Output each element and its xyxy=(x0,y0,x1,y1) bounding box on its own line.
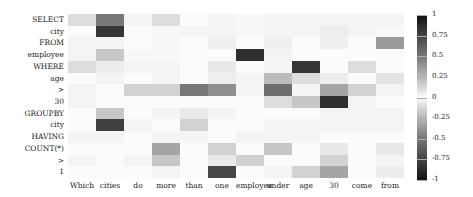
heatmap-cell xyxy=(180,61,208,73)
colorbar-tick xyxy=(417,98,427,99)
heatmap-cell xyxy=(124,131,152,143)
heatmap-cell xyxy=(320,14,348,26)
heatmap-cell xyxy=(208,143,236,155)
heatmap-cell xyxy=(348,119,376,131)
heatmap-cell xyxy=(320,166,348,178)
heatmap-cell xyxy=(180,155,208,167)
y-tick-label: city xyxy=(50,119,64,130)
heatmap-cell xyxy=(320,49,348,61)
heatmap-cell xyxy=(152,61,180,73)
y-tick-label: > xyxy=(58,84,64,95)
heatmap-cell xyxy=(348,166,376,178)
colorbar-tick xyxy=(417,159,427,160)
heatmap-cell xyxy=(236,166,264,178)
heatmap-cell xyxy=(152,143,180,155)
heatmap-cell xyxy=(208,26,236,38)
heatmap-cell xyxy=(376,166,404,178)
heatmap-cell xyxy=(68,155,96,167)
heatmap-cell xyxy=(292,37,320,49)
y-tick-label: FROM xyxy=(39,37,64,48)
colorbar-tick-label: 1 xyxy=(432,10,436,18)
heatmap-cell xyxy=(68,14,96,26)
heatmap-cell xyxy=(68,26,96,38)
heatmap-cell xyxy=(152,26,180,38)
colorbar-tick xyxy=(417,15,427,16)
x-tick-label: more xyxy=(152,181,180,190)
y-tick-label: WHERE xyxy=(33,61,64,72)
heatmap-cell xyxy=(124,61,152,73)
y-tick-label: city xyxy=(50,26,64,37)
heatmap-cell xyxy=(376,73,404,85)
heatmap-cell xyxy=(124,84,152,96)
heatmap-cell xyxy=(264,166,292,178)
heatmap-cell xyxy=(236,26,264,38)
heatmap-cell xyxy=(292,84,320,96)
heatmap-cell xyxy=(152,37,180,49)
heatmap-cell xyxy=(208,61,236,73)
heatmap-cell xyxy=(236,155,264,167)
heatmap-cell xyxy=(236,61,264,73)
y-tick-label: 30 xyxy=(54,96,64,107)
heatmap-cell xyxy=(96,73,124,85)
heatmap-cell xyxy=(320,108,348,120)
heatmap-cell xyxy=(348,73,376,85)
heatmap-cell xyxy=(68,37,96,49)
heatmap-cell xyxy=(292,143,320,155)
heatmap-cell xyxy=(124,166,152,178)
heatmap-cell xyxy=(376,119,404,131)
heatmap-cell xyxy=(376,108,404,120)
heatmap-cell xyxy=(264,155,292,167)
colorbar-tick xyxy=(417,139,427,140)
heatmap-cell xyxy=(152,119,180,131)
heatmap-cell xyxy=(348,84,376,96)
heatmap-cell xyxy=(376,49,404,61)
heatmap-cell xyxy=(208,49,236,61)
heatmap-cell xyxy=(124,73,152,85)
heatmap-cell xyxy=(124,96,152,108)
y-tick-label: GROUPBY xyxy=(25,108,65,119)
heatmap-cell xyxy=(348,108,376,120)
heatmap-cell xyxy=(236,143,264,155)
heatmap-cell xyxy=(292,73,320,85)
heatmap-cell xyxy=(376,14,404,26)
heatmap-cell xyxy=(96,37,124,49)
heatmap-cell xyxy=(264,61,292,73)
heatmap-cell xyxy=(152,73,180,85)
heatmap-cell xyxy=(96,155,124,167)
heatmap-cell xyxy=(68,108,96,120)
heatmap-cell xyxy=(236,37,264,49)
heatmap-cell xyxy=(236,108,264,120)
colorbar-tick-label: -0.75 xyxy=(432,154,450,162)
heatmap-cell xyxy=(348,155,376,167)
heatmap-cell xyxy=(152,131,180,143)
heatmap-cell xyxy=(348,37,376,49)
heatmap-cell xyxy=(264,84,292,96)
x-tick-label: Which xyxy=(68,181,96,190)
x-tick-label: one xyxy=(208,181,236,190)
heatmap-cell xyxy=(264,14,292,26)
heatmap-cell xyxy=(264,37,292,49)
heatmap-cell xyxy=(152,49,180,61)
heatmap-cell xyxy=(68,84,96,96)
heatmap-cell xyxy=(376,155,404,167)
heatmap-cell xyxy=(292,14,320,26)
heatmap-cell xyxy=(152,84,180,96)
heatmap-cell xyxy=(348,143,376,155)
heatmap-cell xyxy=(236,84,264,96)
heatmap-cell xyxy=(208,155,236,167)
heatmap-cell xyxy=(68,119,96,131)
heatmap-cell xyxy=(152,155,180,167)
heatmap-cell xyxy=(320,61,348,73)
heatmap-cell xyxy=(124,26,152,38)
heatmap-cell xyxy=(152,14,180,26)
colorbar-tick xyxy=(417,77,427,78)
y-tick-label: age xyxy=(50,73,64,84)
heatmap-cell xyxy=(292,108,320,120)
heatmap-cell xyxy=(292,61,320,73)
heatmap-cell xyxy=(96,61,124,73)
heatmap-cell xyxy=(180,26,208,38)
heatmap-cell xyxy=(292,119,320,131)
heatmap-cell xyxy=(376,37,404,49)
heatmap-cell xyxy=(264,49,292,61)
heatmap-cell xyxy=(124,14,152,26)
